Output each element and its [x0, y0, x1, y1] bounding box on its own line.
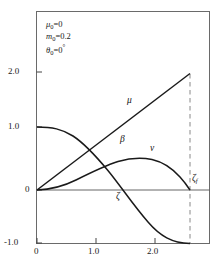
annotation-mu-value: =0: [54, 19, 63, 29]
curve-label-zeta-f: ζf: [192, 173, 198, 183]
figure-container: 2.0 1.0 0 -1.0 0 1.0 2.0 μ0=0 m0=0.2 θ0=…: [0, 0, 224, 274]
y-tick-label-1: 1.0: [8, 121, 19, 131]
curve-label-zeta: ζ: [116, 191, 120, 201]
curve-label-nu: ν: [150, 143, 154, 153]
annotation-theta-subscript: 0: [50, 49, 53, 56]
x-tick-label-1: 1.0: [88, 246, 99, 256]
annotation-theta-degree: °: [62, 43, 65, 51]
y-tick-label-neg1: -1.0: [4, 237, 18, 247]
annotation-mu-subscript: 0: [50, 23, 53, 30]
curve-label-mu: μ: [127, 95, 132, 105]
annotation-m-subscript: 0: [52, 35, 55, 42]
x-tick-label-0: 0: [34, 246, 39, 256]
curve-label-beta: β: [120, 134, 125, 144]
y-tick-label-2: 2.0: [8, 66, 19, 76]
annotation-line-mu0: μ0=0: [46, 19, 71, 31]
parameter-annotation: μ0=0 m0=0.2 θ0=0°: [46, 19, 71, 56]
zeta-f-subscript: f: [196, 177, 198, 184]
plot-svg: [0, 0, 224, 274]
annotation-line-m0: m0=0.2: [46, 31, 71, 43]
y-tick-label-0: 0: [25, 184, 30, 194]
annotation-m-value: =0.2: [55, 31, 70, 41]
annotation-line-theta0: θ0=0°: [46, 42, 71, 56]
x-tick-label-2: 2.0: [147, 246, 158, 256]
